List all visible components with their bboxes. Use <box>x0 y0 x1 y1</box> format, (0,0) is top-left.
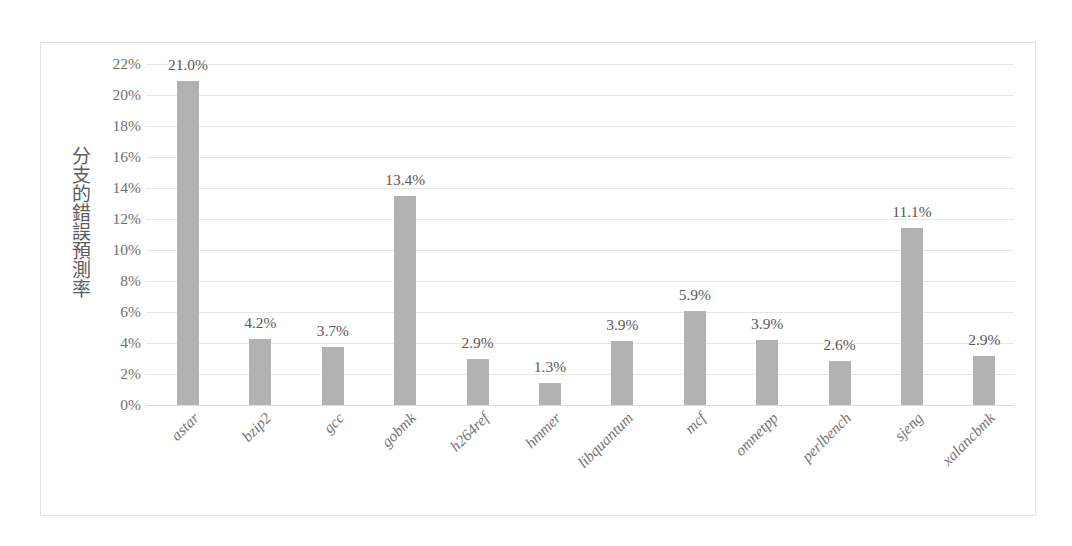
bar <box>829 361 851 405</box>
y-axis-tick-label: 14% <box>93 180 141 196</box>
bar <box>394 196 416 405</box>
bar-value-label: 2.9% <box>949 332 1019 348</box>
gridline <box>146 64 1014 65</box>
bar-value-label: 21.0% <box>153 57 223 73</box>
bar-value-label: 13.4% <box>370 172 440 188</box>
bar-value-label: 3.9% <box>732 316 802 332</box>
gridline <box>146 126 1014 127</box>
y-axis-tick-label: 6% <box>93 304 141 320</box>
gridline <box>146 312 1014 313</box>
bar <box>249 339 271 405</box>
bar <box>611 341 633 405</box>
gridline <box>146 188 1014 189</box>
chart-frame: 分支的錯誤預測率 0%2%4%6%8%10%12%14%16%18%20%22%… <box>40 42 1036 516</box>
bar <box>539 383 561 405</box>
plot-area: 21.0%4.2%3.7%13.4%2.9%1.3%3.9%5.9%3.9%2.… <box>146 64 1014 405</box>
y-axis-tick-label: 8% <box>93 273 141 289</box>
bar <box>177 81 199 405</box>
y-axis-tick-label: 10% <box>93 242 141 258</box>
y-axis-tick-label: 20% <box>93 87 141 103</box>
gridline <box>146 405 1014 406</box>
gridline <box>146 281 1014 282</box>
y-axis-tick-label: 22% <box>93 56 141 72</box>
gridline <box>146 157 1014 158</box>
y-axis-title: 分支的錯誤預測率 <box>63 146 89 298</box>
y-axis-tick-label: 16% <box>93 149 141 165</box>
bar-value-label: 2.9% <box>443 335 513 351</box>
y-axis-tick-label: 4% <box>93 335 141 351</box>
bar-value-label: 11.1% <box>877 204 947 220</box>
bar <box>901 228 923 405</box>
gridline <box>146 374 1014 375</box>
gridline <box>146 343 1014 344</box>
y-axis-tick-label: 12% <box>93 211 141 227</box>
y-axis-tick-label: 2% <box>93 366 141 382</box>
y-axis-tick-label: 18% <box>93 118 141 134</box>
bar <box>684 311 706 405</box>
bar-value-label: 3.9% <box>587 317 657 333</box>
bar <box>322 347 344 405</box>
bar-value-label: 1.3% <box>515 359 585 375</box>
x-axis-category-labels: astarbzip2gccgobmkh264refhmmerlibquantum… <box>146 409 1014 509</box>
bar-value-label: 5.9% <box>660 287 730 303</box>
bar <box>973 356 995 405</box>
gridline <box>146 95 1014 96</box>
bar-value-label: 4.2% <box>225 315 295 331</box>
gridline <box>146 250 1014 251</box>
y-axis-tick-labels: 0%2%4%6%8%10%12%14%16%18%20%22% <box>89 64 141 405</box>
bar <box>467 359 489 406</box>
bar-value-label: 3.7% <box>298 323 368 339</box>
y-axis-tick-label: 0% <box>93 397 141 413</box>
bar-value-label: 2.6% <box>805 337 875 353</box>
bar <box>756 340 778 405</box>
